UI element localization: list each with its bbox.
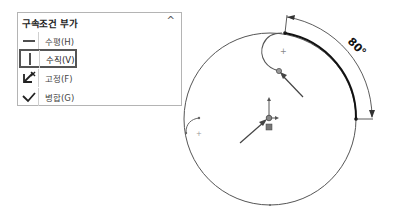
angular-dimension-arc[interactable] xyxy=(287,17,372,117)
arrow-head-icon xyxy=(280,72,287,79)
dimension-extension xyxy=(285,15,287,33)
dimension-label[interactable]: 80° xyxy=(345,35,369,59)
small-arc-top[interactable] xyxy=(262,33,282,71)
origin-icon xyxy=(266,124,272,130)
center-mark-icon: + xyxy=(196,130,202,138)
x-axis-arrow-icon xyxy=(275,116,279,120)
pointer-arrow xyxy=(240,122,264,143)
quadrant-point xyxy=(269,204,271,206)
dimension-arrow-icon xyxy=(287,15,295,20)
center-mark-icon: + xyxy=(280,47,287,56)
selected-arc[interactable] xyxy=(285,33,356,119)
origin-point[interactable] xyxy=(266,115,272,121)
dimension-arrow-icon xyxy=(369,110,375,118)
y-axis-arrow-icon xyxy=(267,97,271,101)
pointer-arrow xyxy=(282,75,303,97)
arc-point[interactable] xyxy=(185,132,187,134)
sketch-canvas[interactable]: + + 80° xyxy=(0,0,393,220)
arc-point[interactable] xyxy=(198,117,200,119)
